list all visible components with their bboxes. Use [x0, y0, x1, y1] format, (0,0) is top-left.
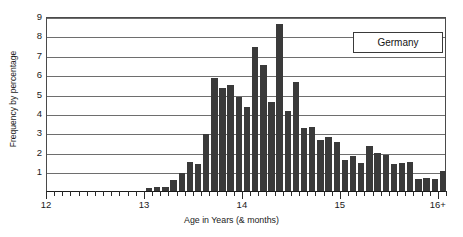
x-axis-minor-tick: [356, 191, 357, 196]
legend-box: Germany: [353, 32, 443, 53]
bar: [219, 88, 225, 191]
bar: [195, 164, 201, 190]
x-axis-minor-tick: [397, 191, 398, 196]
bar: [227, 85, 233, 191]
y-axis-tick-label: 3: [24, 128, 42, 138]
x-axis-tick-label: 13: [124, 199, 164, 210]
x-axis-tick-label: 12: [26, 199, 66, 210]
bar: [268, 102, 274, 190]
x-axis-major-tick: [144, 191, 145, 199]
x-axis-minor-tick: [201, 191, 202, 196]
x-axis-minor-tick: [119, 191, 120, 196]
x-axis-minor-tick: [62, 191, 63, 196]
y-axis-tick-label: 4: [24, 109, 42, 119]
bar: [334, 142, 340, 190]
y-axis-tick-label: 6: [24, 70, 42, 80]
x-axis-minor-tick: [389, 191, 390, 196]
x-axis-minor-tick: [364, 191, 365, 196]
x-axis-minor-tick: [185, 191, 186, 196]
x-axis-minor-tick: [275, 191, 276, 196]
bar: [170, 180, 176, 191]
x-axis-title: Age in Years (& months): [0, 215, 463, 225]
bar: [391, 164, 397, 190]
bar: [187, 162, 193, 190]
x-axis-minor-tick: [258, 191, 259, 196]
x-axis-minor-tick: [430, 191, 431, 196]
x-axis-major-tick: [242, 191, 243, 199]
y-axis-tick-label: 1: [24, 167, 42, 177]
bar: [383, 155, 389, 191]
x-axis-minor-tick: [79, 191, 80, 196]
bar: [423, 178, 429, 191]
x-axis-minor-tick: [413, 191, 414, 196]
x-axis-tick-label: 15: [320, 199, 360, 210]
x-axis-minor-tick: [209, 191, 210, 196]
x-axis-minor-tick: [348, 191, 349, 196]
bar: [432, 179, 438, 191]
x-axis-minor-tick: [54, 191, 55, 196]
bar: [211, 78, 217, 190]
histogram-chart: Frequency by percentage 987654321 German…: [0, 0, 463, 237]
bar: [260, 65, 266, 190]
x-axis-tick-labels: 1213141516+: [0, 199, 463, 213]
bar: [366, 146, 372, 191]
x-axis-minor-tick: [405, 191, 406, 196]
bar: [236, 97, 242, 190]
x-axis-ticks: [46, 191, 446, 199]
bar: [203, 134, 209, 190]
x-axis-minor-tick: [332, 191, 333, 196]
bar: [154, 187, 160, 191]
bar: [252, 47, 258, 190]
x-axis-major-tick: [340, 191, 341, 199]
bar: [399, 163, 405, 190]
bar: [342, 160, 348, 190]
bar: [374, 153, 380, 191]
x-axis-minor-tick: [152, 191, 153, 196]
bar: [415, 179, 421, 191]
bar: [309, 127, 315, 191]
y-axis-title: Frequency by percentage: [8, 24, 18, 174]
x-axis-minor-tick: [193, 191, 194, 196]
x-axis-minor-tick: [226, 191, 227, 196]
x-axis-minor-tick: [160, 191, 161, 196]
x-axis-minor-tick: [217, 191, 218, 196]
x-axis-tick-label: 14: [222, 199, 262, 210]
x-axis-minor-tick: [250, 191, 251, 196]
bar: [317, 140, 323, 190]
x-axis-minor-tick: [315, 191, 316, 196]
bar: [407, 162, 413, 190]
x-axis-minor-tick: [299, 191, 300, 196]
x-axis-minor-tick: [70, 191, 71, 196]
x-axis-minor-tick: [128, 191, 129, 196]
x-axis-minor-tick: [291, 191, 292, 196]
x-axis-minor-tick: [177, 191, 178, 196]
bar: [325, 137, 331, 190]
x-axis-minor-tick: [95, 191, 96, 196]
bar: [358, 163, 364, 190]
bar: [162, 187, 168, 191]
x-axis-minor-tick: [446, 191, 447, 196]
bar: [440, 171, 446, 190]
bar: [293, 82, 299, 191]
bar: [301, 128, 307, 191]
x-axis-minor-tick: [324, 191, 325, 196]
y-axis-tick-label: 7: [24, 51, 42, 61]
x-axis-major-tick: [46, 191, 47, 199]
x-axis-minor-tick: [381, 191, 382, 196]
x-axis-tick-label: 16+: [418, 199, 458, 210]
x-axis-minor-tick: [168, 191, 169, 196]
x-axis-minor-tick: [87, 191, 88, 196]
bar: [179, 173, 185, 190]
bar: [244, 107, 250, 190]
x-axis-minor-tick: [136, 191, 137, 196]
y-axis-tick-label: 8: [24, 31, 42, 41]
y-axis-tick-label: 2: [24, 148, 42, 158]
y-axis-tick-label: 9: [24, 12, 42, 22]
bar: [350, 156, 356, 191]
x-axis-minor-tick: [283, 191, 284, 196]
x-axis-minor-tick: [307, 191, 308, 196]
legend-label: Germany: [377, 37, 418, 48]
bar: [285, 111, 291, 190]
x-axis-minor-tick: [266, 191, 267, 196]
x-axis-minor-tick: [111, 191, 112, 196]
